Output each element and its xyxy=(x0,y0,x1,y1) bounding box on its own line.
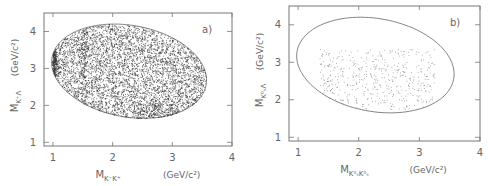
scatter-points xyxy=(320,49,436,110)
scatter-points xyxy=(52,24,207,119)
y-axis-label: MK⁰ₛΛ xyxy=(254,84,268,108)
x-axis-unit: (GeV/c²) xyxy=(163,170,200,180)
axis-ticks: 12341234 xyxy=(275,6,484,158)
y-tick-label: 2 xyxy=(275,94,281,105)
x-tick-label: 2 xyxy=(109,152,115,163)
x-axis-label-sub: K⁰ₛK⁰ₛ xyxy=(349,170,369,178)
x-axis-label: MK⁰ₛK⁰ₛ xyxy=(340,164,369,178)
x-axis-unit: (GeV/c²) xyxy=(410,165,447,175)
panel-a: 12341234a)MK⁻K⁺(GeV/c²)MK⁺Λ(GeV/c²) xyxy=(0,0,244,186)
x-tick-label: 3 xyxy=(169,152,175,163)
x-axis-label: MK⁻K⁺ xyxy=(95,169,121,183)
panel-label: a) xyxy=(202,24,212,35)
y-axis-label-sub: K⁺Λ xyxy=(15,90,23,103)
x-tick-label: 2 xyxy=(356,147,362,158)
y-tick-label: 4 xyxy=(275,19,281,30)
x-axis-label-sub: K⁻K⁺ xyxy=(104,175,121,183)
x-tick-label: 4 xyxy=(477,147,483,158)
y-tick-label: 3 xyxy=(275,57,281,68)
y-axis-unit: (GeV/c²) xyxy=(10,39,20,76)
x-tick-label: 1 xyxy=(50,152,56,163)
x-tick-label: 4 xyxy=(229,152,235,163)
y-axis-label: MK⁺Λ xyxy=(9,90,23,112)
y-tick-label: 3 xyxy=(30,63,36,74)
kinematic-boundary xyxy=(297,17,454,113)
x-tick-label: 3 xyxy=(416,147,422,158)
y-axis-unit: (GeV/c²) xyxy=(255,33,265,70)
y-axis-label-sub: K⁰ₛΛ xyxy=(260,84,268,99)
panel-b: 12341234b)MK⁰ₛK⁰ₛ(GeV/c²)MK⁰ₛΛ(GeV/c²) xyxy=(244,0,488,186)
x-tick-label: 1 xyxy=(295,147,301,158)
y-tick-label: 1 xyxy=(275,132,281,143)
panel-label: b) xyxy=(450,17,460,28)
y-tick-label: 1 xyxy=(30,137,36,148)
dalitz-plot-b: 12341234b)MK⁰ₛK⁰ₛ(GeV/c²)MK⁰ₛΛ(GeV/c²) xyxy=(244,0,488,186)
y-tick-label: 4 xyxy=(30,26,36,37)
y-tick-label: 2 xyxy=(30,100,36,111)
dalitz-plot-a: 12341234a)MK⁻K⁺(GeV/c²)MK⁺Λ(GeV/c²) xyxy=(0,0,244,186)
